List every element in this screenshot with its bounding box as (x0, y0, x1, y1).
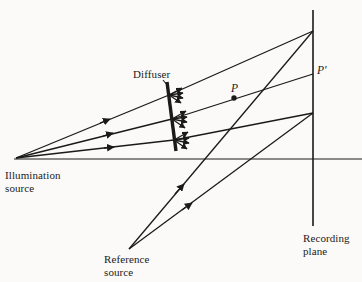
illumination-ray-3 (16, 140, 174, 158)
recording-plane-label: Recording plane (303, 232, 350, 257)
reference-ray-group (129, 31, 313, 249)
diffuser-label: Diffuser (133, 68, 170, 81)
reference-ray-lower (129, 113, 313, 249)
object-point-p-dot (231, 95, 236, 100)
illumination-source-label: Illumination source (5, 169, 61, 194)
illumination-ray-1 (16, 95, 169, 158)
reference-source-label: Reference source (104, 253, 149, 278)
reference-ray-upper-arrow (175, 184, 184, 194)
figure-canvas: Illumination source Diffuser P P′ Refere… (0, 0, 362, 282)
object-ray-bottom (174, 113, 313, 140)
object-point-p-label: P (231, 82, 238, 95)
object-ray-middle (172, 74, 313, 119)
object-ray-group (169, 31, 313, 140)
illumination-ray-2 (16, 119, 172, 158)
illumination-ray-group (16, 95, 174, 158)
reference-ray-upper (129, 31, 313, 249)
image-point-p-prime-label: P′ (317, 64, 327, 77)
illumination-ray-1-arrow (100, 119, 110, 123)
marked-points-group (231, 95, 236, 100)
object-ray-top (169, 31, 313, 95)
reference-ray-lower-arrow (182, 203, 192, 210)
